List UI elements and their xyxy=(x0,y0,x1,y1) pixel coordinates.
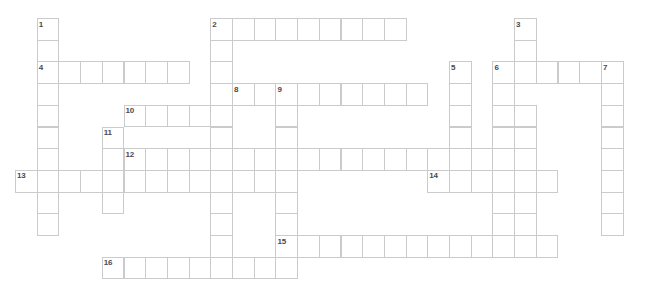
crossword-cell[interactable] xyxy=(492,170,515,193)
crossword-cell[interactable] xyxy=(210,18,233,41)
crossword-cell[interactable] xyxy=(145,257,168,280)
crossword-cell[interactable] xyxy=(210,213,233,236)
crossword-cell[interactable] xyxy=(254,18,277,41)
crossword-cell[interactable] xyxy=(275,105,298,128)
crossword-cell[interactable] xyxy=(167,257,190,280)
crossword-cell[interactable] xyxy=(275,127,298,150)
crossword-cell[interactable] xyxy=(427,170,450,193)
crossword-cell[interactable] xyxy=(232,170,255,193)
crossword-cell[interactable] xyxy=(37,127,60,150)
crossword-cell[interactable] xyxy=(384,18,407,41)
crossword-cell[interactable] xyxy=(341,148,364,171)
crossword-cell[interactable] xyxy=(189,257,212,280)
crossword-cell[interactable] xyxy=(514,18,537,41)
crossword-cell[interactable] xyxy=(275,213,298,236)
crossword-cell[interactable] xyxy=(254,148,277,171)
crossword-cell[interactable] xyxy=(601,127,624,150)
crossword-cell[interactable] xyxy=(601,213,624,236)
crossword-cell[interactable] xyxy=(297,83,320,106)
crossword-cell[interactable] xyxy=(601,83,624,106)
crossword-cell[interactable] xyxy=(80,61,103,84)
crossword-cell[interactable] xyxy=(514,192,537,215)
crossword-cell[interactable] xyxy=(319,148,342,171)
crossword-cell[interactable] xyxy=(232,148,255,171)
crossword-cell[interactable] xyxy=(210,148,233,171)
crossword-cell[interactable] xyxy=(297,235,320,258)
crossword-cell[interactable] xyxy=(15,170,38,193)
crossword-cell[interactable] xyxy=(80,170,103,193)
crossword-cell[interactable] xyxy=(124,257,147,280)
crossword-cell[interactable] xyxy=(536,61,559,84)
crossword-cell[interactable] xyxy=(601,105,624,128)
crossword-grid[interactable]: 12345678910111213141516 xyxy=(0,0,664,285)
crossword-cell[interactable] xyxy=(471,170,494,193)
crossword-cell[interactable] xyxy=(275,257,298,280)
crossword-cell[interactable] xyxy=(492,213,515,236)
crossword-cell[interactable] xyxy=(37,105,60,128)
crossword-cell[interactable] xyxy=(492,235,515,258)
crossword-cell[interactable] xyxy=(210,83,233,106)
crossword-cell[interactable] xyxy=(232,83,255,106)
crossword-cell[interactable] xyxy=(406,83,429,106)
crossword-cell[interactable] xyxy=(297,148,320,171)
crossword-cell[interactable] xyxy=(449,235,472,258)
crossword-cell[interactable] xyxy=(471,235,494,258)
crossword-cell[interactable] xyxy=(362,83,385,106)
crossword-cell[interactable] xyxy=(601,61,624,84)
crossword-cell[interactable] xyxy=(37,61,60,84)
crossword-cell[interactable] xyxy=(275,148,298,171)
crossword-cell[interactable] xyxy=(167,148,190,171)
crossword-cell[interactable] xyxy=(102,170,125,193)
crossword-cell[interactable] xyxy=(319,235,342,258)
crossword-cell[interactable] xyxy=(189,148,212,171)
crossword-cell[interactable] xyxy=(492,127,515,150)
crossword-cell[interactable] xyxy=(384,235,407,258)
crossword-cell[interactable] xyxy=(124,105,147,128)
crossword-cell[interactable] xyxy=(362,148,385,171)
crossword-cell[interactable] xyxy=(558,61,581,84)
crossword-cell[interactable] xyxy=(427,235,450,258)
crossword-cell[interactable] xyxy=(58,61,81,84)
crossword-cell[interactable] xyxy=(514,148,537,171)
crossword-cell[interactable] xyxy=(514,61,537,84)
crossword-cell[interactable] xyxy=(37,83,60,106)
crossword-cell[interactable] xyxy=(232,257,255,280)
crossword-cell[interactable] xyxy=(37,213,60,236)
crossword-cell[interactable] xyxy=(362,235,385,258)
crossword-cell[interactable] xyxy=(492,148,515,171)
crossword-cell[interactable] xyxy=(341,18,364,41)
crossword-cell[interactable] xyxy=(102,127,125,150)
crossword-cell[interactable] xyxy=(427,148,450,171)
crossword-cell[interactable] xyxy=(102,257,125,280)
crossword-cell[interactable] xyxy=(254,170,277,193)
crossword-cell[interactable] xyxy=(254,257,277,280)
crossword-cell[interactable] xyxy=(102,61,125,84)
crossword-cell[interactable] xyxy=(145,148,168,171)
crossword-cell[interactable] xyxy=(406,235,429,258)
crossword-cell[interactable] xyxy=(145,170,168,193)
crossword-cell[interactable] xyxy=(362,18,385,41)
crossword-cell[interactable] xyxy=(102,148,125,171)
crossword-cell[interactable] xyxy=(601,192,624,215)
crossword-cell[interactable] xyxy=(167,105,190,128)
crossword-cell[interactable] xyxy=(210,192,233,215)
crossword-cell[interactable] xyxy=(189,105,212,128)
crossword-cell[interactable] xyxy=(536,235,559,258)
crossword-cell[interactable] xyxy=(449,61,472,84)
crossword-cell[interactable] xyxy=(102,192,125,215)
crossword-cell[interactable] xyxy=(514,127,537,150)
crossword-cell[interactable] xyxy=(449,148,472,171)
crossword-cell[interactable] xyxy=(275,18,298,41)
crossword-cell[interactable] xyxy=(601,170,624,193)
crossword-cell[interactable] xyxy=(514,105,537,128)
crossword-cell[interactable] xyxy=(210,235,233,258)
crossword-cell[interactable] xyxy=(37,192,60,215)
crossword-cell[interactable] xyxy=(145,105,168,128)
crossword-cell[interactable] xyxy=(37,18,60,41)
crossword-cell[interactable] xyxy=(189,170,212,193)
crossword-cell[interactable] xyxy=(384,148,407,171)
crossword-cell[interactable] xyxy=(210,170,233,193)
crossword-cell[interactable] xyxy=(536,170,559,193)
crossword-cell[interactable] xyxy=(341,235,364,258)
crossword-cell[interactable] xyxy=(492,105,515,128)
